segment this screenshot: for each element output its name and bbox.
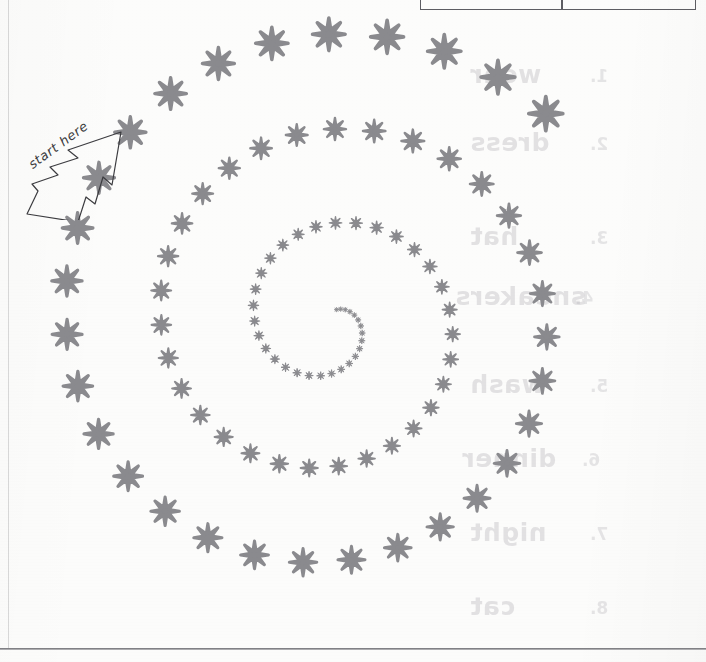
asterisk-marker	[481, 60, 515, 94]
asterisk-marker	[358, 450, 375, 467]
asterisk-glyph	[370, 221, 383, 234]
asterisk-glyph	[301, 459, 318, 476]
asterisk-glyph	[328, 370, 336, 378]
asterisk-marker	[151, 497, 179, 525]
asterisk-marker	[277, 239, 289, 251]
asterisk-marker	[172, 213, 192, 233]
asterisk-glyph	[347, 309, 353, 315]
asterisk-marker	[256, 268, 267, 279]
asterisk-marker	[52, 319, 82, 349]
asterisk-marker	[347, 309, 353, 315]
asterisk-glyph	[334, 307, 339, 312]
asterisk-glyph	[155, 78, 187, 110]
asterisk-glyph	[250, 138, 271, 159]
asterisk-glyph	[317, 372, 325, 380]
asterisk-marker	[215, 428, 233, 446]
asterisk-marker	[423, 260, 437, 274]
asterisk-glyph	[390, 230, 403, 243]
asterisk-marker	[248, 300, 258, 310]
asterisk-glyph	[423, 400, 439, 416]
asterisk-glyph	[84, 419, 113, 448]
asterisk-glyph	[352, 353, 359, 360]
asterisk-glyph	[286, 124, 308, 146]
spiral-marker-group	[52, 18, 563, 576]
asterisk-marker	[329, 217, 341, 229]
asterisk-marker	[334, 307, 339, 312]
asterisk-marker	[194, 524, 222, 552]
asterisk-marker	[270, 354, 279, 363]
asterisk-marker	[84, 419, 113, 448]
asterisk-marker	[191, 406, 210, 425]
asterisk-glyph	[277, 239, 289, 251]
asterisk-marker	[530, 281, 554, 305]
asterisk-marker	[241, 444, 259, 462]
asterisk-marker	[350, 217, 363, 230]
asterisk-glyph	[401, 130, 424, 153]
asterisk-glyph	[363, 120, 385, 142]
asterisk-glyph	[151, 497, 179, 525]
asterisk-glyph	[359, 330, 365, 336]
asterisk-marker	[516, 411, 541, 436]
asterisk-marker	[281, 363, 290, 372]
asterisk-marker	[256, 27, 288, 59]
asterisk-marker	[443, 352, 458, 367]
asterisk-glyph	[270, 354, 279, 363]
asterisk-glyph	[534, 325, 559, 350]
asterisk-marker	[310, 221, 322, 233]
asterisk-marker	[254, 331, 264, 341]
asterisk-glyph	[329, 217, 341, 229]
asterisk-glyph	[254, 331, 264, 341]
asterisk-marker	[346, 360, 353, 367]
asterisk-glyph	[114, 462, 143, 491]
asterisk-marker	[529, 97, 563, 131]
asterisk-marker	[517, 241, 541, 265]
asterisk-glyph	[384, 534, 411, 561]
asterisk-glyph	[408, 243, 422, 257]
asterisk-glyph	[438, 147, 461, 170]
asterisk-marker	[202, 48, 234, 80]
asterisk-marker	[358, 337, 365, 344]
asterisk-marker	[384, 438, 400, 454]
scanned-page: 1.wear2.dress3.hat4.sneakers5.wash6.dinn…	[0, 0, 706, 662]
asterisk-marker	[330, 458, 347, 475]
asterisk-marker	[158, 246, 178, 266]
asterisk-marker	[293, 368, 302, 377]
asterisk-glyph	[194, 524, 222, 552]
asterisk-marker	[406, 420, 422, 436]
asterisk-glyph	[250, 284, 261, 295]
asterisk-marker	[192, 183, 213, 204]
asterisk-glyph	[158, 246, 178, 266]
asterisk-marker	[442, 302, 457, 317]
asterisk-marker	[172, 379, 191, 398]
asterisk-marker	[408, 243, 422, 257]
asterisk-glyph	[346, 360, 353, 367]
asterisk-glyph	[427, 514, 453, 540]
asterisk-glyph	[261, 344, 271, 354]
asterisk-glyph	[241, 541, 269, 569]
asterisk-marker	[313, 18, 346, 51]
asterisk-marker	[338, 546, 365, 573]
asterisk-glyph	[191, 406, 210, 425]
asterisk-marker	[356, 345, 363, 352]
asterisk-glyph	[384, 438, 400, 454]
asterisk-glyph	[516, 411, 541, 436]
asterisk-marker	[261, 344, 271, 354]
asterisk-glyph	[358, 323, 364, 329]
asterisk-glyph	[445, 327, 460, 342]
asterisk-glyph	[152, 315, 172, 335]
asterisk-glyph	[470, 172, 493, 195]
asterisk-glyph	[241, 444, 259, 462]
asterisk-glyph	[338, 307, 343, 312]
asterisk-marker	[384, 534, 411, 561]
asterisk-glyph	[350, 217, 363, 230]
asterisk-glyph	[219, 158, 240, 179]
asterisk-marker	[355, 317, 361, 323]
asterisk-glyph	[356, 345, 363, 352]
asterisk-glyph	[250, 316, 260, 326]
asterisk-glyph	[338, 546, 365, 573]
asterisk-glyph	[442, 302, 457, 317]
asterisk-glyph	[517, 241, 541, 265]
asterisk-marker	[371, 20, 404, 53]
asterisk-marker	[530, 368, 555, 393]
asterisk-marker	[390, 230, 403, 243]
